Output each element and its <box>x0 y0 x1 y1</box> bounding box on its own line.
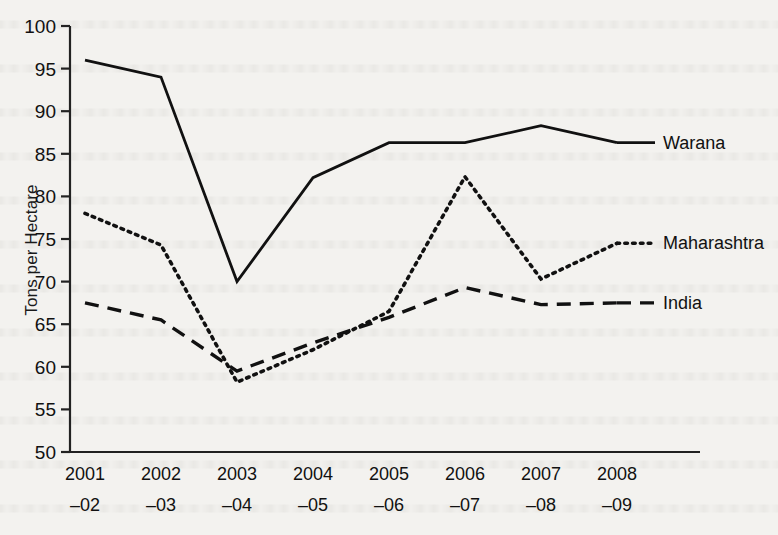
y-tick-label: 70 <box>35 272 56 293</box>
x-tick-label: 2008 <box>597 464 637 484</box>
series-label-maharashtra: Maharashtra <box>663 233 765 253</box>
series-label-warana: Warana <box>663 133 726 153</box>
x-tick-label: –02 <box>70 495 100 515</box>
x-tick-label: 2002 <box>141 464 181 484</box>
x-tick-label: –03 <box>146 495 176 515</box>
y-tick-label: 75 <box>35 229 56 250</box>
y-tick-label: 95 <box>35 59 56 80</box>
y-tick-label: 65 <box>35 314 56 335</box>
x-axis-ticks: 2001–022002–032003–042004–052005–062006–… <box>65 464 637 515</box>
series-line-maharashtra <box>85 177 617 382</box>
y-tick-label: 85 <box>35 144 56 165</box>
x-tick-label: –07 <box>450 495 480 515</box>
y-tick-label: 50 <box>35 442 56 463</box>
x-tick-label: 2003 <box>217 464 257 484</box>
x-tick-label: 2007 <box>521 464 561 484</box>
chart-plot-area: 505560657075808590951002001–022002–03200… <box>0 0 778 535</box>
y-tick-label: 80 <box>35 186 56 207</box>
y-tick-label: 100 <box>24 16 56 37</box>
series-label-india: India <box>663 293 703 313</box>
series-line-india <box>85 288 617 371</box>
x-tick-label: 2005 <box>369 464 409 484</box>
x-tick-label: 2001 <box>65 464 105 484</box>
x-tick-label: –05 <box>298 495 328 515</box>
x-tick-label: –04 <box>222 495 252 515</box>
y-tick-label: 60 <box>35 357 56 378</box>
data-series-group: WaranaMaharashtraIndia <box>85 60 765 382</box>
y-tick-label: 90 <box>35 101 56 122</box>
x-tick-label: 2006 <box>445 464 485 484</box>
y-tick-label: 55 <box>35 399 56 420</box>
line-chart: Tons per Hectare 50556065707580859095100… <box>0 0 778 535</box>
y-axis-ticks: 50556065707580859095100 <box>24 16 70 463</box>
x-tick-label: –09 <box>602 495 632 515</box>
x-tick-label: –06 <box>374 495 404 515</box>
x-tick-label: 2004 <box>293 464 333 484</box>
x-tick-label: –08 <box>526 495 556 515</box>
